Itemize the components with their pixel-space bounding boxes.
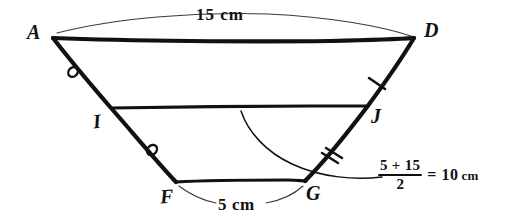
segment-IJ <box>111 106 368 108</box>
midsegment-leader-curve <box>241 111 382 178</box>
diagram-canvas: A D I J F G 15 cm 5 cm 5 + 15 2 = 10 cm <box>0 0 516 223</box>
formula-unit: cm <box>458 169 478 182</box>
bottom-base-dimension-label: 5 cm <box>218 196 255 213</box>
vertex-label-F: F <box>159 186 174 207</box>
vertex-label-D: D <box>424 20 439 40</box>
formula-fraction: 5 + 15 2 <box>378 158 422 192</box>
circle-mark-if <box>145 143 159 157</box>
segment-AF <box>53 38 176 182</box>
vertex-label-J: J <box>371 106 382 126</box>
formula-result: = 10 <box>427 167 458 184</box>
midsegment-formula: 5 + 15 2 = 10 cm <box>378 158 479 192</box>
segment-FG <box>176 180 306 182</box>
bottom-dimension-brace-right <box>266 186 303 203</box>
segment-AD <box>53 38 414 41</box>
vertex-label-A: A <box>27 22 41 42</box>
top-base-dimension-label: 15 cm <box>196 6 244 23</box>
formula-numerator: 5 + 15 <box>378 158 422 174</box>
formula-denominator: 2 <box>396 176 404 192</box>
vertex-label-G: G <box>306 183 321 203</box>
bottom-dimension-brace-left <box>179 186 216 203</box>
